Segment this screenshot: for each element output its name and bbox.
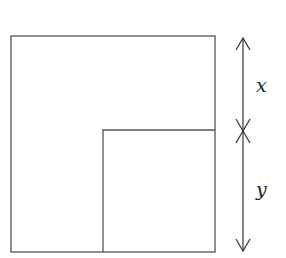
inner-square [103, 130, 215, 252]
square-diagram: x y [0, 0, 286, 258]
outer-square [11, 36, 215, 252]
diagram-canvas: x y [0, 0, 286, 258]
dimension-arrow-x [236, 38, 250, 131]
dimension-arrow-y [236, 131, 250, 251]
label-x: x [256, 74, 267, 96]
label-y: y [255, 178, 267, 200]
